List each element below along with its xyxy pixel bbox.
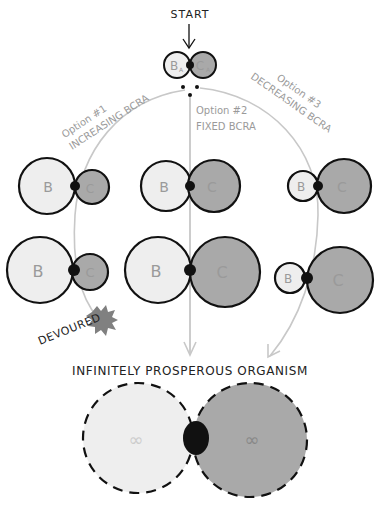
svg-text:C: C xyxy=(85,265,94,280)
infinite-organism: ∞ ∞ xyxy=(83,383,307,497)
svg-text:B: B xyxy=(284,272,292,286)
infinity-c-label: ∞ xyxy=(245,429,260,450)
option3-stage1-organism: B C xyxy=(288,159,371,213)
option3-label: Option #3 DECREASING BCRA xyxy=(249,59,342,135)
svg-text:FIXED BCRA: FIXED BCRA xyxy=(196,121,256,132)
start-organism: B A C A xyxy=(164,52,216,78)
svg-text:B: B xyxy=(297,180,305,194)
svg-text:B: B xyxy=(151,262,162,281)
devoured-label: DEVOURED xyxy=(36,311,103,348)
svg-text:C: C xyxy=(86,182,94,196)
svg-text:B: B xyxy=(33,262,44,281)
organism-growth-diagram: START B A C A Option #1 INCREASING BCRA … xyxy=(0,0,381,508)
option3-stage2-organism: B C xyxy=(275,247,373,313)
svg-text:B: B xyxy=(43,179,53,195)
start-arrow-icon xyxy=(183,24,195,48)
prosperous-organism-title: INFINITELY PROSPEROUS ORGANISM xyxy=(72,364,308,378)
svg-text:C: C xyxy=(196,59,204,73)
option2-label: Option #2 FIXED BCRA xyxy=(196,105,256,132)
option1-stage2-organism: B C xyxy=(7,237,108,303)
svg-text:Option #2: Option #2 xyxy=(196,105,247,116)
infinity-b-label: ∞ xyxy=(129,429,144,450)
option1-label: Option #1 INCREASING BCRA xyxy=(59,80,150,151)
svg-text:B: B xyxy=(159,179,169,195)
svg-text:C: C xyxy=(332,271,343,290)
svg-text:C: C xyxy=(207,179,217,195)
start-label: START xyxy=(171,8,210,21)
svg-text:B: B xyxy=(170,59,178,73)
option1-stage1-organism: B C xyxy=(19,158,109,214)
option2-stage2-organism: B C xyxy=(125,237,260,307)
svg-text:C: C xyxy=(216,263,227,282)
svg-text:C: C xyxy=(337,179,347,195)
